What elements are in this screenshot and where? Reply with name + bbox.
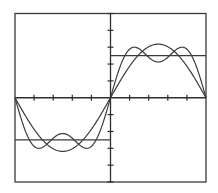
fourier-square-wave-chart [0,0,218,193]
